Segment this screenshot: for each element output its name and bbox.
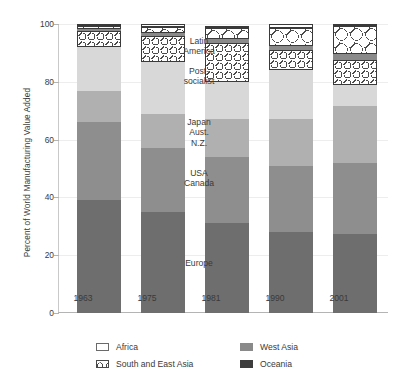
segment-south-east-asia: [269, 28, 313, 45]
legend-label-oceania: Oceania: [260, 359, 396, 369]
segment-post-socialist: [141, 62, 185, 114]
segment-japan-aust-nz: [269, 119, 313, 165]
y-tick-label-0: 0: [34, 308, 54, 318]
segment-japan-aust-nz: [141, 114, 185, 149]
bar-1990[interactable]: [269, 24, 313, 313]
segment-latin-america: [333, 60, 377, 85]
y-axis-line: [58, 24, 59, 313]
y-tick-mark-80: [54, 82, 59, 83]
segment-latin-america: [141, 36, 185, 62]
x-tick-label-2001: 2001: [309, 293, 369, 303]
segment-south-east-asia: [205, 28, 249, 38]
segment-post-socialist: [77, 47, 121, 90]
y-tick-label-20: 20: [34, 250, 54, 260]
oceania-swatch: [240, 360, 253, 368]
y-tick-mark-60: [54, 140, 59, 141]
segment-usa-canada: [333, 163, 377, 234]
legend-label-west-asia: West Asia: [260, 342, 396, 352]
x-tick-label-1990: 1990: [245, 293, 305, 303]
y-tick-mark-20: [54, 255, 59, 256]
x-tick-label-1975: 1975: [117, 293, 177, 303]
segment-post-socialist: [333, 85, 377, 107]
segment-latin-america: [205, 43, 249, 82]
segment-japan-aust-nz: [205, 119, 249, 157]
west-asia-swatch: [240, 343, 253, 351]
segment-usa-canada: [205, 157, 249, 223]
chart-legend: Africa West Asia South and East Asia Oce…: [96, 338, 396, 372]
segment-south-east-asia: [333, 26, 377, 55]
segment-post-socialist: [269, 70, 313, 119]
bar-1963[interactable]: [77, 24, 121, 314]
y-tick-mark-100: [54, 24, 59, 25]
segment-japan-aust-nz: [77, 91, 121, 123]
x-tick-label-1981: 1981: [181, 293, 241, 303]
segment-latin-america: [269, 50, 313, 70]
x-tick-label-1963: 1963: [53, 293, 113, 303]
y-tick-label-40: 40: [34, 192, 54, 202]
plot-area: 100 80 60 40 20 0: [58, 24, 388, 313]
segment-post-socialist: [205, 82, 249, 120]
y-tick-label-80: 80: [34, 77, 54, 87]
y-tick-mark-40: [54, 197, 59, 198]
segment-usa-canada: [269, 166, 313, 232]
legend-label-africa: Africa: [116, 342, 234, 352]
segment-usa-canada: [77, 122, 121, 200]
bar-1975[interactable]: [141, 24, 185, 313]
segment-latin-america: [77, 31, 121, 47]
bar-1981[interactable]: [205, 26, 249, 313]
y-tick-label-60: 60: [34, 135, 54, 145]
y-tick-label-100: 100: [34, 19, 54, 29]
bar-2001[interactable]: [333, 24, 377, 314]
y-axis-title: Percent of World Manufacturing Value Add…: [23, 58, 32, 288]
segment-usa-canada: [141, 148, 185, 212]
y-tick-mark-0: [54, 313, 59, 314]
south-east-asia-swatch: [96, 360, 109, 368]
segment-japan-aust-nz: [333, 106, 377, 162]
africa-swatch: [96, 343, 109, 351]
legend-label-south-east-asia: South and East Asia: [116, 359, 234, 369]
stacked-bar-chart: Percent of World Manufacturing Value Add…: [0, 0, 411, 386]
